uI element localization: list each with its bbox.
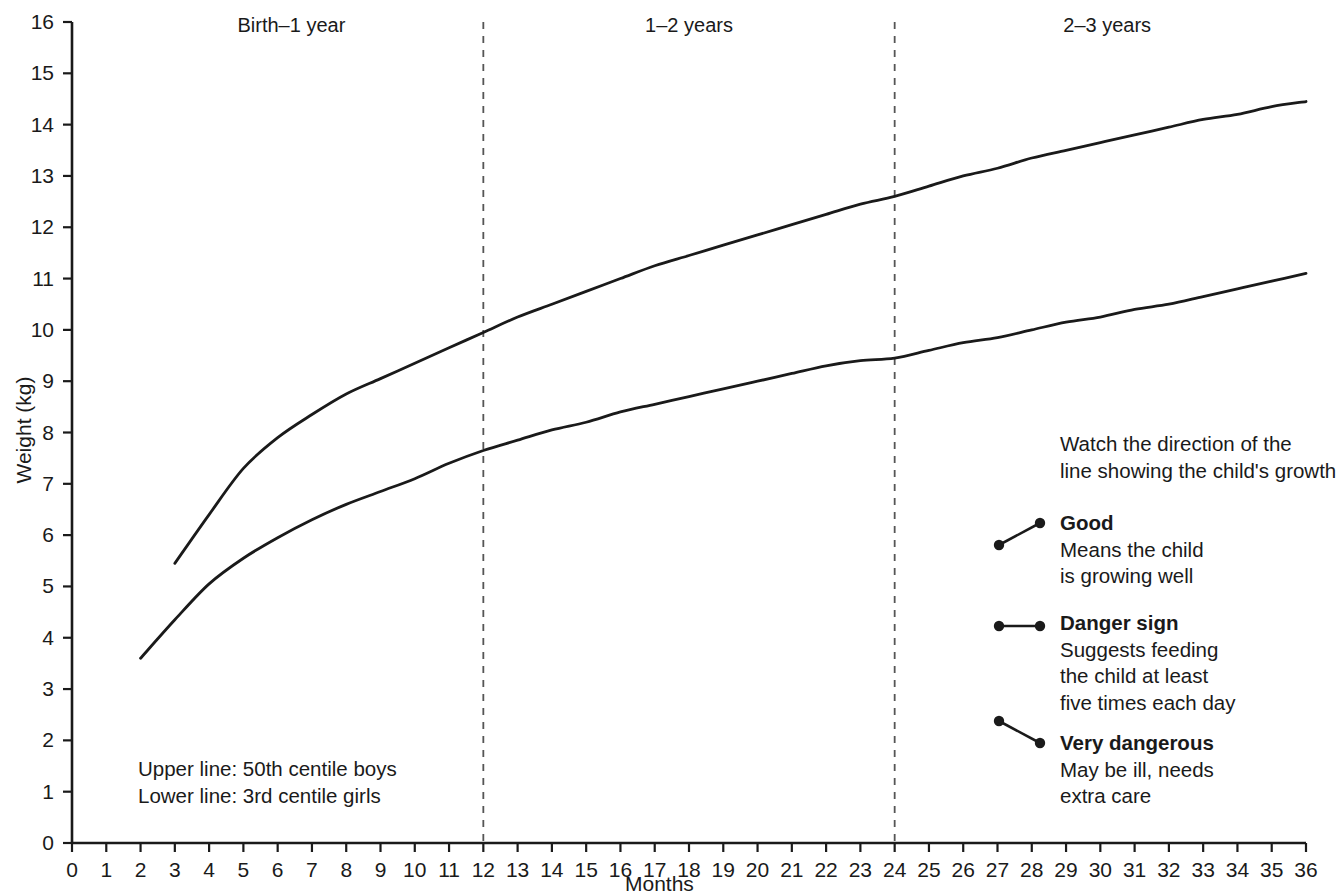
x-tick-label: 13 bbox=[501, 859, 535, 880]
y-tick-label: 2 bbox=[14, 729, 54, 750]
x-tick-label: 22 bbox=[809, 859, 843, 880]
x-tick-label: 24 bbox=[878, 859, 912, 880]
rising-line-marker-icon bbox=[985, 512, 1057, 552]
y-tick-label: 12 bbox=[14, 216, 54, 237]
legend-desc-danger-2: the child at least bbox=[1060, 663, 1235, 690]
x-tick-label: 26 bbox=[946, 859, 980, 880]
y-tick-label: 0 bbox=[14, 832, 54, 853]
x-tick-label: 9 bbox=[364, 859, 398, 880]
x-tick-label: 7 bbox=[295, 859, 329, 880]
x-tick-label: 30 bbox=[1083, 859, 1117, 880]
falling-line-marker-icon bbox=[985, 710, 1057, 750]
x-tick-label: 20 bbox=[741, 859, 775, 880]
x-tick-label: 19 bbox=[706, 859, 740, 880]
y-tick-label: 5 bbox=[14, 575, 54, 596]
period-label-2: 2–3 years bbox=[987, 14, 1227, 37]
x-tick-label: 15 bbox=[569, 859, 603, 880]
x-tick-label: 5 bbox=[226, 859, 260, 880]
centile-note-block: Upper line: 50th centile boys Lower line… bbox=[138, 756, 397, 809]
x-tick-label: 28 bbox=[1015, 859, 1049, 880]
centile-note-lower: Lower line: 3rd centile girls bbox=[138, 783, 397, 810]
y-tick-label: 13 bbox=[14, 165, 54, 186]
legend-title-very-dangerous: Very dangerous bbox=[1060, 730, 1214, 757]
period-label-1: 1–2 years bbox=[569, 14, 809, 37]
x-tick-label: 10 bbox=[398, 859, 432, 880]
x-tick-label: 8 bbox=[329, 859, 363, 880]
centile-note-upper: Upper line: 50th centile boys bbox=[138, 756, 397, 783]
x-tick-label: 31 bbox=[1118, 859, 1152, 880]
legend-intro-line-2: line showing the child's growth bbox=[1060, 457, 1336, 484]
y-tick-label: 11 bbox=[14, 268, 54, 289]
y-tick-label: 3 bbox=[14, 678, 54, 699]
flat-line-marker-icon bbox=[985, 612, 1057, 652]
x-tick-label: 4 bbox=[192, 859, 226, 880]
legend-title-danger-sign: Danger sign bbox=[1060, 610, 1235, 637]
legend-desc-very-dangerous-1: May be ill, needs bbox=[1060, 757, 1214, 784]
legend-text-danger-sign: Danger sign Suggests feeding the child a… bbox=[1060, 610, 1235, 716]
x-tick-label: 35 bbox=[1255, 859, 1289, 880]
x-axis-title: Months bbox=[625, 872, 694, 892]
y-tick-label: 4 bbox=[14, 627, 54, 648]
period-label-0: Birth–1 year bbox=[171, 14, 411, 37]
x-tick-label: 6 bbox=[261, 859, 295, 880]
x-tick-label: 14 bbox=[535, 859, 569, 880]
x-tick-label: 36 bbox=[1289, 859, 1323, 880]
y-axis-title: Weight (kg) bbox=[12, 370, 36, 490]
legend-title-good: Good bbox=[1060, 510, 1204, 537]
x-tick-label: 27 bbox=[981, 859, 1015, 880]
x-tick-label: 32 bbox=[1152, 859, 1186, 880]
legend-desc-good-1: Means the child bbox=[1060, 537, 1204, 564]
x-tick-label: 12 bbox=[466, 859, 500, 880]
legend-text-very-dangerous: Very dangerous May be ill, needs extra c… bbox=[1060, 730, 1214, 810]
x-tick-label: 33 bbox=[1186, 859, 1220, 880]
y-tick-label: 14 bbox=[14, 114, 54, 135]
y-tick-label: 16 bbox=[14, 11, 54, 32]
x-tick-label: 1 bbox=[89, 859, 123, 880]
legend-text-good: Good Means the child is growing well bbox=[1060, 510, 1204, 590]
x-tick-label: 21 bbox=[775, 859, 809, 880]
legend-desc-good-2: is growing well bbox=[1060, 563, 1204, 590]
x-tick-label: 2 bbox=[124, 859, 158, 880]
centile-curve-0 bbox=[175, 102, 1306, 564]
legend-intro: Watch the direction of the line showing … bbox=[1060, 430, 1336, 484]
legend-desc-danger-1: Suggests feeding bbox=[1060, 637, 1235, 664]
y-tick-label: 15 bbox=[14, 62, 54, 83]
x-tick-label: 3 bbox=[158, 859, 192, 880]
x-tick-label: 34 bbox=[1220, 859, 1254, 880]
x-tick-label: 29 bbox=[1049, 859, 1083, 880]
y-tick-label: 6 bbox=[14, 524, 54, 545]
y-tick-label: 10 bbox=[14, 319, 54, 340]
legend-desc-very-dangerous-2: extra care bbox=[1060, 783, 1214, 810]
x-tick-label: 0 bbox=[55, 859, 89, 880]
y-tick-label: 1 bbox=[14, 781, 54, 802]
x-tick-label: 11 bbox=[432, 859, 466, 880]
x-tick-label: 25 bbox=[912, 859, 946, 880]
legend-desc-danger-3: five times each day bbox=[1060, 690, 1235, 717]
legend-intro-line-1: Watch the direction of the bbox=[1060, 430, 1336, 457]
x-tick-label: 23 bbox=[843, 859, 877, 880]
